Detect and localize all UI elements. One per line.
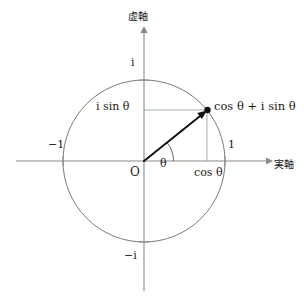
tick-label-i: i xyxy=(131,57,135,68)
tick-label-one: 1 xyxy=(228,139,235,150)
tick-label-neg-one: −1 xyxy=(48,139,64,150)
imaginary-axis-arrowhead xyxy=(140,26,147,33)
point-label: cos θ + i sin θ xyxy=(214,101,296,113)
point-marker xyxy=(204,107,210,113)
complex-plane-canvas xyxy=(0,0,304,303)
real-projection-label: cos θ xyxy=(194,167,223,178)
complex-plane-figure: 虚軸 実軸 i −i −1 1 O θ i sin θ cos θ cos θ … xyxy=(0,0,304,303)
imaginary-projection-label: i sin θ xyxy=(96,101,129,112)
real-axis-arrowhead xyxy=(266,157,273,164)
real-axis-label: 実軸 xyxy=(274,160,294,170)
theta-arc xyxy=(167,143,173,161)
origin-label: O xyxy=(130,166,140,178)
imaginary-axis-label: 虚軸 xyxy=(128,12,148,22)
tick-label-neg-i: −i xyxy=(124,250,137,261)
angle-theta-label: θ xyxy=(160,158,167,169)
